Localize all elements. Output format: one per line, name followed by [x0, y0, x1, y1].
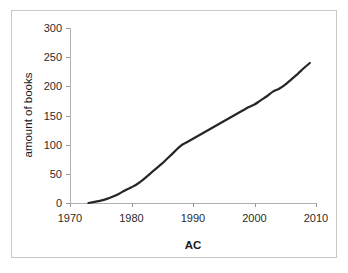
y-tick-label: 50 [50, 168, 62, 180]
x-axis-ticks: 19701980199020002010 [58, 203, 328, 224]
chart-figure: 050100150200250300 19701980199020002010 … [0, 0, 348, 273]
y-tick-label: 150 [44, 110, 62, 122]
y-axis-ticks: 050100150200250300 [44, 22, 70, 209]
y-tick-label: 300 [44, 22, 62, 34]
x-tick-label: 1970 [58, 212, 82, 224]
plot-area [70, 28, 316, 203]
y-tick-label: 250 [44, 51, 62, 63]
x-axis-title: AC [185, 239, 202, 251]
y-axis-title: amount of books [22, 72, 34, 157]
y-tick-label: 200 [44, 80, 62, 92]
line-chart: 050100150200250300 19701980199020002010 … [0, 0, 348, 273]
y-tick-label: 100 [44, 139, 62, 151]
x-tick-label: 1990 [181, 212, 205, 224]
y-tick-label: 0 [56, 197, 62, 209]
x-tick-label: 1980 [119, 212, 143, 224]
x-tick-label: 2000 [242, 212, 266, 224]
x-tick-label: 2010 [304, 212, 328, 224]
